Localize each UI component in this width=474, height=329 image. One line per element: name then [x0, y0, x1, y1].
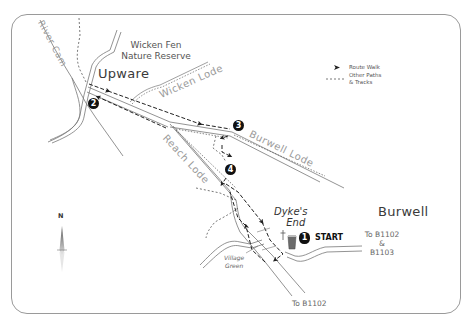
place-upware: Upware — [98, 67, 149, 80]
path-upware-north — [77, 18, 86, 82]
road-label-line2: & — [362, 239, 402, 248]
place-village-green: Village Green — [224, 254, 244, 269]
legend-other-paths-line1: Other Paths — [349, 72, 381, 79]
place-dykes-end-line2: End — [274, 217, 308, 228]
waypoint-marker-2: 2 — [88, 98, 99, 109]
label-to-b1102-b1103: To B1102 & B1103 — [362, 230, 402, 257]
place-wicken-fen-line2: Nature Reserve — [120, 51, 192, 62]
legend — [326, 65, 345, 79]
compass-north-label: N — [58, 213, 63, 220]
place-village-green-line1: Village — [224, 254, 244, 262]
main-lode-channel — [87, 87, 170, 127]
waypoint-marker-1: 1 — [299, 232, 310, 244]
waypoint-marker-4: 4 — [225, 164, 236, 175]
label-to-b1102-south: To B1102 — [292, 299, 327, 308]
place-burwell: Burwell — [378, 205, 428, 218]
church-icon — [281, 230, 286, 240]
legend-route-arrow-icon — [334, 65, 340, 70]
pub-icon — [288, 235, 296, 249]
place-dykes-end-line1: Dyke's — [274, 206, 308, 217]
legend-other-paths: Other Paths & Tracks — [349, 72, 381, 85]
other-paths — [196, 136, 238, 238]
legend-other-paths-line2: & Tracks — [349, 79, 381, 86]
road-label-line3: B1103 — [362, 248, 402, 257]
start-label: START — [315, 234, 343, 242]
map-canvas — [0, 0, 474, 329]
place-wicken-fen: Wicken Fen Nature Reserve — [120, 40, 192, 62]
route-walk — [89, 84, 283, 262]
place-dykes-end: Dyke's End — [274, 206, 308, 228]
place-wicken-fen-line1: Wicken Fen — [120, 40, 192, 51]
compass-icon — [57, 226, 67, 272]
waypoint-marker-3: 3 — [233, 120, 244, 131]
road-label-line1: To B1102 — [362, 230, 402, 239]
place-village-green-line2: Green — [224, 262, 244, 270]
upware-road — [50, 30, 121, 143]
legend-route-walk: Route Walk — [349, 64, 380, 71]
